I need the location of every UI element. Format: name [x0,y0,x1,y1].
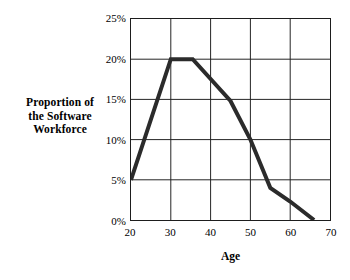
plot-area [130,18,331,221]
y-tick-label: 20% [92,53,126,65]
series-polyline [131,59,314,220]
x-tick-label: 60 [276,226,306,238]
x-tick-label: 30 [155,226,185,238]
y-tick-label: 10% [92,134,126,146]
y-tick-label: 15% [92,93,126,105]
x-tick-label: 70 [316,226,346,238]
x-tick-label: 20 [115,226,145,238]
y-tick-label: 25% [92,12,126,24]
x-tick-label: 50 [236,226,266,238]
x-axis-tick-labels: 203040506070 [130,226,331,242]
y-axis-tick-labels: 0%5%10%15%20%25% [90,18,126,221]
x-axis-title: Age [130,250,331,262]
data-series-line [131,19,330,220]
chart-container: Proportion of the Software Workforce 0%5… [0,0,350,280]
x-tick-label: 40 [195,226,225,238]
y-tick-label: 5% [92,174,126,186]
